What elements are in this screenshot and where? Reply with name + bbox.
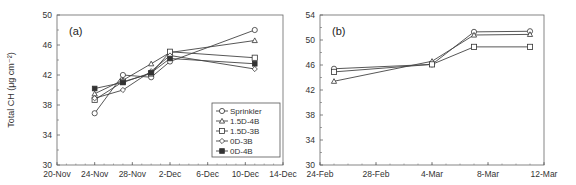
x-tick-label: 12-Mar — [531, 169, 558, 179]
y-tick-label: 42 — [43, 70, 53, 80]
plot-frame — [320, 15, 544, 165]
x-tick-label: 8-Mar — [477, 169, 499, 179]
x-tick-label: 14-Dec — [269, 169, 297, 179]
x-tick-label: 6-Dec — [196, 169, 219, 179]
series-1-5d-4b — [92, 38, 257, 96]
chart-canvas: 30343842465020-Nov24-Nov28-Nov2-Dec6-Dec… — [0, 0, 576, 185]
x-tick-label: 24-Nov — [81, 169, 109, 179]
y-tick-label: 50 — [306, 35, 316, 45]
series-sprinkler — [92, 27, 257, 115]
y-tick-label: 46 — [306, 60, 316, 70]
x-tick-label: 2-Dec — [159, 169, 182, 179]
x-tick-label: 4-Mar — [421, 169, 443, 179]
legend-label: 0D-3B — [230, 137, 253, 146]
series-1-5d-4b — [331, 32, 532, 84]
legend-label: 1.5D-3B — [230, 127, 259, 136]
x-tick-label: 20-Nov — [43, 169, 71, 179]
legend: Sprinkler1.5D-4B1.5D-3B0D-3B0D-4B — [212, 103, 280, 157]
chart-panel-b: 3034384246505424-Feb28-Feb4-Mar8-Mar12-M… — [306, 10, 558, 179]
legend-label: 0D-4B — [230, 147, 253, 156]
y-tick-label: 50 — [43, 10, 53, 20]
x-tick-label: 28-Feb — [363, 169, 390, 179]
series-1-5d-3b — [92, 49, 257, 102]
x-axis: 20-Nov24-Nov28-Nov2-Dec6-Dec10-Dec14-Dec — [43, 162, 297, 179]
y-tick-label: 34 — [43, 130, 53, 140]
x-tick-label: 24-Feb — [307, 169, 334, 179]
y-tick-label: 38 — [43, 100, 53, 110]
legend-label: 1.5D-4B — [230, 117, 259, 126]
y-tick-label: 42 — [306, 85, 316, 95]
figure: 30343842465020-Nov24-Nov28-Nov2-Dec6-Dec… — [0, 0, 576, 185]
x-tick-label: 28-Nov — [119, 169, 147, 179]
legend-label: Sprinkler — [230, 107, 262, 116]
panel-label: (a) — [69, 25, 82, 37]
y-tick-label: 54 — [306, 10, 316, 20]
x-tick-label: 10-Dec — [232, 169, 260, 179]
chart-panel-a: 30343842465020-Nov24-Nov28-Nov2-Dec6-Dec… — [6, 10, 297, 179]
x-axis: 24-Feb28-Feb4-Mar8-Mar12-Mar — [307, 162, 558, 179]
panel-label: (b) — [332, 25, 345, 37]
y-tick-label: 46 — [43, 40, 53, 50]
y-axis-title: Total CH (μg cm⁻²) — [6, 52, 16, 128]
y-tick-label: 38 — [306, 110, 316, 120]
y-tick-label: 34 — [306, 135, 316, 145]
